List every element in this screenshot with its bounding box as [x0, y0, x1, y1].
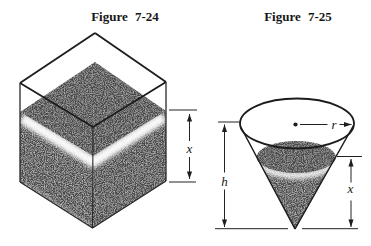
cone-depth-dimension: x: [337, 157, 362, 228]
cone-height-label: h: [221, 174, 228, 189]
figure-7-24-title: Figure 7-24: [91, 9, 159, 24]
cone-center-dot: [293, 122, 297, 126]
cone-radius-dimension: r: [293, 117, 351, 132]
box-depth-label: x: [186, 141, 193, 156]
cone-depth-label: x: [347, 181, 354, 196]
box-depth-dimension: x: [169, 110, 197, 182]
cone-height-dimension: h: [218, 122, 240, 227]
box-front-corner-edge: [93, 127, 94, 228]
figure-7-25-title: Figure 7-25: [264, 9, 332, 24]
cone-radius-label: r: [331, 117, 337, 132]
figure-7-25: Figure 7-25 r h: [215, 9, 362, 229]
textbook-figures-panel: Figure 7-24 x: [0, 0, 371, 246]
figures-svg: Figure 7-24 x: [0, 0, 371, 246]
figure-7-24: Figure 7-24 x: [20, 9, 197, 228]
